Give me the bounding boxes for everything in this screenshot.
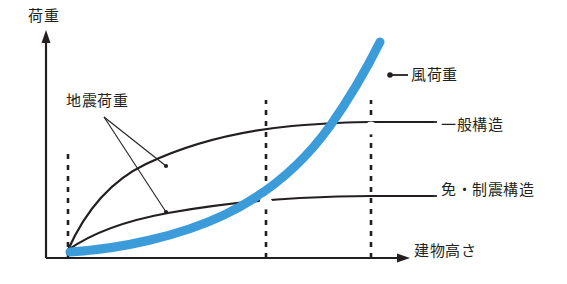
series-label-general-structure: 一般構造 (441, 117, 503, 134)
seismic-leader-line-lower (104, 117, 166, 212)
seismic-leader-dot-upper (164, 164, 168, 168)
y-axis-arrowhead (42, 30, 51, 43)
diagram-canvas (0, 0, 567, 284)
seismic-leader-lines-group (104, 117, 166, 212)
seismic-leader-dots-group (164, 164, 168, 214)
axis-group (42, 30, 411, 263)
intersection-marker-general (365, 122, 376, 133)
x-axis-label: 建物高さ (414, 243, 476, 260)
series-label-damped-structure: 免・制震構造 (441, 182, 534, 199)
series-label-wind-load: 風荷重 (411, 67, 458, 84)
y-axis-label: 荷重 (28, 8, 59, 25)
seismic-leader-line-upper (104, 117, 166, 166)
intersection-marker-damped (260, 197, 271, 208)
curve-wind-load (70, 42, 380, 252)
load-vs-building-height-diagram: 荷重 建物高さ 風荷重 一般構造 免・制震構造 地震荷重 (0, 0, 567, 284)
seismic-leader-dot-lower (164, 210, 168, 214)
curve-general-structure (68, 122, 433, 250)
x-axis-arrowhead (397, 254, 410, 263)
wind-label-leader-dot (387, 72, 393, 78)
callout-leaders-group (387, 72, 437, 196)
annotation-label-seismic-load: 地震荷重 (66, 93, 128, 110)
